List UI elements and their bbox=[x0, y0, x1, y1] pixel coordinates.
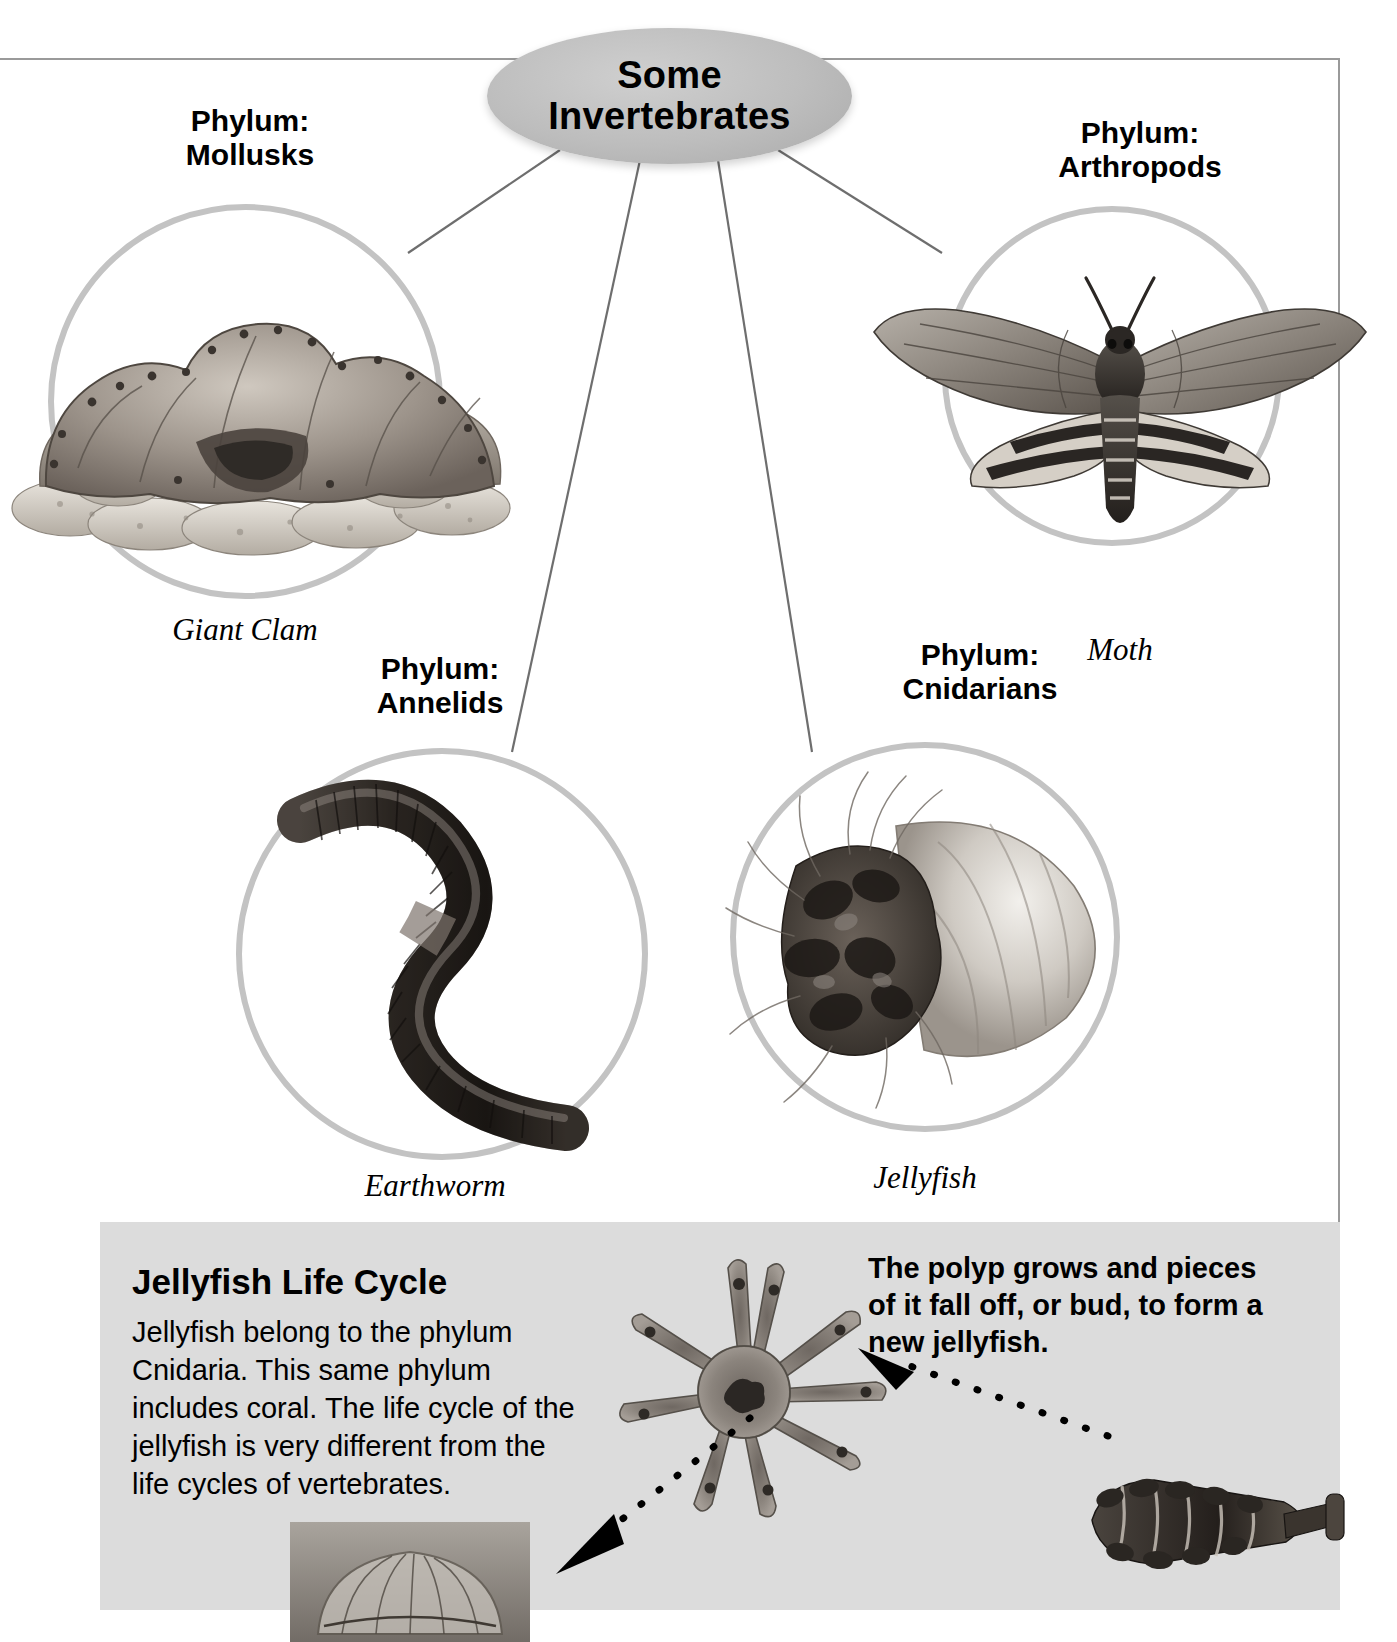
arrow-strobila-to-polyp bbox=[840, 1332, 1120, 1452]
phylum-label-arthropods: Phylum: Arthropods bbox=[1000, 116, 1280, 184]
jellyfish-life-cycle-panel: Jellyfish Life Cycle Jellyfish belong to… bbox=[100, 1222, 1340, 1610]
connector-to-cnidarians bbox=[718, 160, 812, 752]
caption-jellyfish: Jellyfish bbox=[800, 1160, 1050, 1196]
phylum-label-annelids: Phylum: Annelids bbox=[300, 652, 580, 720]
phylum-label-mollusks: Phylum: Mollusks bbox=[130, 104, 370, 172]
giant-clam-photo bbox=[0, 236, 560, 566]
moth-photo bbox=[860, 270, 1380, 570]
caption-earthworm: Earthworm bbox=[270, 1168, 600, 1204]
center-label-line1: Some bbox=[617, 55, 722, 96]
young-jellyfish-photo bbox=[290, 1522, 530, 1642]
jellyfish-photo bbox=[700, 750, 1140, 1130]
center-label: Some Invertebrates bbox=[487, 28, 852, 164]
arrow-polyp-to-medusa bbox=[500, 1402, 760, 1592]
center-node: Some Invertebrates bbox=[487, 28, 852, 164]
panel-heading: Jellyfish Life Cycle bbox=[132, 1262, 447, 1302]
earthworm-photo bbox=[230, 760, 660, 1160]
caption-giant-clam: Giant Clam bbox=[70, 612, 420, 648]
center-label-line2: Invertebrates bbox=[548, 96, 791, 137]
budding-polyp-photo bbox=[1070, 1442, 1360, 1612]
connector-to-arthropods bbox=[778, 150, 942, 253]
phylum-label-cnidarians: Phylum: Cnidarians bbox=[830, 638, 1130, 706]
